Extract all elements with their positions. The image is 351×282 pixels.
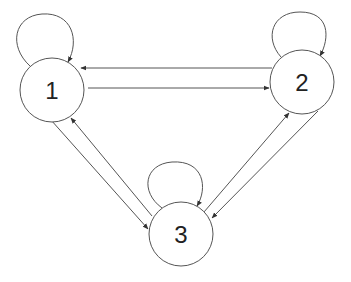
edge-2-to-3 [212, 111, 318, 218]
edge-3-to-1 [71, 118, 152, 216]
edge-1-to-1-self-loop [17, 14, 74, 66]
edge-3-to-2 [204, 113, 289, 212]
node-2-label: 2 [295, 69, 308, 96]
node-3-label: 3 [174, 221, 187, 248]
edge-3-to-3-self-loop [148, 162, 203, 208]
node-1[interactable]: 1 [20, 58, 84, 122]
state-diagram: 1 2 3 [0, 0, 351, 282]
edge-1-to-3 [51, 120, 148, 229]
node-1-label: 1 [45, 77, 58, 104]
node-3[interactable]: 3 [149, 202, 213, 266]
node-2[interactable]: 2 [270, 50, 334, 114]
